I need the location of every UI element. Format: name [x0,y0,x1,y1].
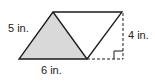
side-length-label: 5 in. [8,22,29,34]
shaded-triangle [19,12,87,59]
base-length-label: 6 in. [41,64,62,76]
right-angle-marker [114,51,123,59]
parallelogram-diagram [0,0,155,83]
height-label: 4 in. [128,29,149,41]
